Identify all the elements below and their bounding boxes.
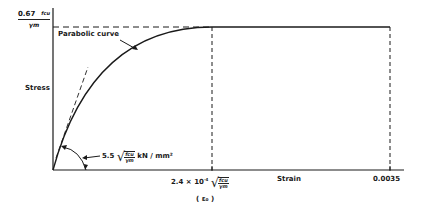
peak-stress-den: γm [18, 20, 50, 28]
stress-strain-diagram: 0.67 fcu γm Stress Parabolic curve 5.5 √… [0, 0, 421, 214]
curve-label: Parabolic curve [58, 31, 119, 38]
tangent-modulus-label: 5.5 √ fcu γm kN / mm² [102, 150, 173, 163]
tangent-den: γm [125, 158, 134, 163]
eps0-prefix: 2.4 × 10 [171, 178, 204, 186]
sqrt-symbol: √ fcu γm [117, 150, 135, 163]
tangent-unit: kN / mm² [137, 152, 173, 160]
peak-stress-label: 0.67 fcu γm [18, 10, 50, 28]
eps0-symbol: ( ε₀ ) [196, 196, 214, 203]
tangent-leader-arrowhead [82, 155, 87, 160]
tangent-angle-arc [63, 147, 86, 170]
tangent-coeff: 5.5 [102, 152, 114, 160]
ultimate-strain-label: 0.0035 [373, 176, 400, 183]
y-axis-label: Stress [25, 85, 50, 92]
peak-stress-num: fcu [41, 10, 50, 18]
x-axis-label: Strain [277, 176, 301, 183]
eps0-label: 2.4 × 10-4 √ fcu γm [171, 176, 229, 189]
eps0-den: γm [219, 184, 228, 189]
sqrt-symbol: √ fcu γm [211, 176, 229, 189]
eps0-exp: -4 [204, 177, 208, 182]
peak-stress-coeff: 0.67 [18, 10, 35, 18]
